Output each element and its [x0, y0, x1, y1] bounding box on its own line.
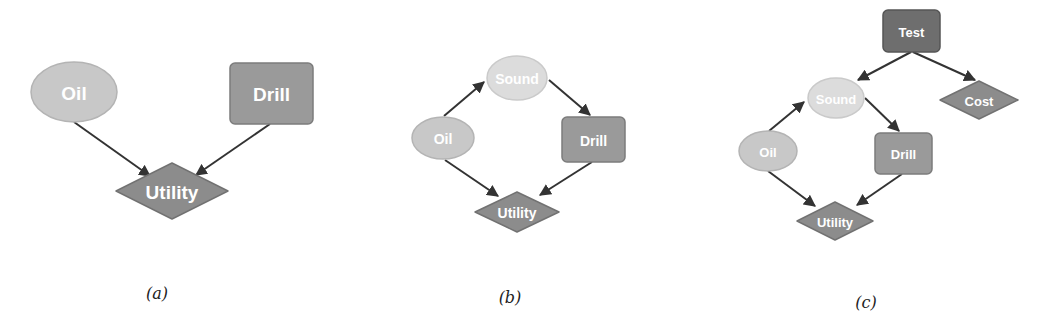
node-drill: Drill — [875, 133, 932, 174]
caption-a: (a) — [146, 284, 168, 303]
node-test: Test — [883, 10, 940, 52]
node-label: Utility — [146, 182, 199, 203]
caption-c: (c) — [855, 293, 876, 312]
edge-oil-to-utility — [74, 122, 150, 176]
node-oil: Oil — [412, 117, 474, 159]
panel-c — [768, 52, 975, 206]
node-cost: Cost — [940, 81, 1018, 119]
node-label: Cost — [965, 94, 995, 109]
node-drill: Drill — [562, 117, 625, 162]
panel-b-nodes: SoundOilDrillUtility — [412, 56, 625, 232]
node-label: Oil — [61, 83, 86, 104]
captions-layer: (a)(b)(c) — [146, 284, 877, 312]
edge-drill-to-utility — [540, 162, 592, 195]
edge-sound-to-drill — [549, 80, 590, 115]
node-label: Utility — [817, 215, 854, 230]
node-drill: Drill — [230, 63, 313, 124]
edge-sound-to-drill — [865, 98, 899, 131]
node-label: Drill — [253, 84, 290, 105]
edge-oil-to-sound — [769, 102, 804, 131]
edge-test-to-sound — [858, 52, 911, 80]
node-label: Oil — [759, 145, 776, 160]
node-utility: Utility — [797, 202, 873, 240]
edge-oil-to-utility — [768, 171, 815, 206]
node-label: Oil — [434, 131, 453, 147]
node-label: Test — [899, 25, 925, 40]
edge-oil-to-utility — [445, 160, 498, 196]
node-label: Sound — [816, 92, 856, 107]
panel-c-nodes: TestCostSoundOilDrillUtility — [739, 10, 1018, 240]
node-oil: Oil — [31, 62, 117, 122]
node-sound: Sound — [487, 56, 547, 100]
node-label: Sound — [495, 71, 539, 87]
node-oil: Oil — [739, 131, 797, 171]
node-label: Drill — [891, 147, 916, 162]
node-utility: Utility — [116, 163, 228, 219]
node-label: Drill — [580, 133, 607, 149]
edge-test-to-cost — [913, 52, 975, 80]
nodes-layer: OilDrillUtilitySoundOilDrillUtilityTestC… — [31, 10, 1018, 240]
influence-diagrams-figure: OilDrillUtilitySoundOilDrillUtilityTestC… — [0, 0, 1052, 325]
node-utility: Utility — [475, 192, 559, 232]
edge-drill-to-utility — [857, 174, 902, 205]
node-label: Utility — [498, 205, 537, 221]
node-sound: Sound — [808, 78, 864, 118]
caption-b: (b) — [499, 288, 522, 307]
panel-a-nodes: OilDrillUtility — [31, 62, 313, 219]
edge-drill-to-utility — [196, 124, 270, 175]
edge-oil-to-sound — [444, 82, 484, 116]
